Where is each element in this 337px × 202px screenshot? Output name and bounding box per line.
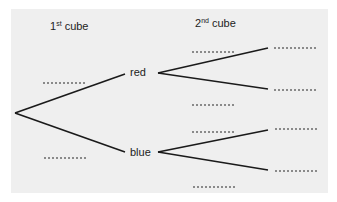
branch-root-red	[15, 74, 125, 113]
blank-red-red-probability[interactable]	[192, 51, 234, 53]
blank-outcome-red-blue[interactable]	[274, 89, 316, 91]
branch-blue-red	[158, 130, 268, 152]
header-second-cube: 2nd cube	[195, 17, 236, 29]
blank-blue-red-probability[interactable]	[192, 131, 234, 133]
branch-red-blue	[158, 73, 268, 89]
blank-first-red-probability[interactable]	[43, 82, 85, 84]
blank-first-blue-probability[interactable]	[44, 157, 86, 159]
branch-blue-blue	[158, 152, 268, 170]
header-first-cube: 1st cube	[50, 20, 89, 32]
branch-root-blue	[15, 113, 125, 152]
blank-blue-blue-probability[interactable]	[193, 186, 235, 188]
node-blue: blue	[130, 147, 151, 158]
node-red: red	[130, 67, 146, 78]
blank-outcome-blue-blue[interactable]	[275, 170, 317, 172]
blank-outcome-blue-red[interactable]	[275, 128, 317, 130]
blank-red-blue-probability[interactable]	[192, 104, 234, 106]
blank-outcome-red-red[interactable]	[274, 47, 316, 49]
